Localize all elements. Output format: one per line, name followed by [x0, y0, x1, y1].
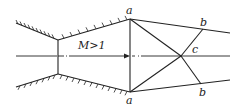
jet-boundary-upper [130, 19, 230, 33]
diverging-wall-lower [58, 74, 130, 95]
diverging-wall-upper [58, 16, 130, 40]
label-b-bottom: b [199, 86, 206, 99]
converging-wall-lower [16, 74, 58, 90]
converging-wall-upper [16, 20, 58, 40]
label-a-top: a [126, 4, 133, 17]
label-c: c [192, 43, 198, 56]
mach-label: M>1 [77, 39, 105, 52]
shock-cb-lower [181, 56, 201, 84]
nozzle-diagram: M>1 a a b b c [0, 0, 244, 112]
flow-arrow-icon [124, 54, 130, 59]
label-b-top: b [200, 16, 207, 29]
label-a-bottom: a [126, 94, 133, 107]
